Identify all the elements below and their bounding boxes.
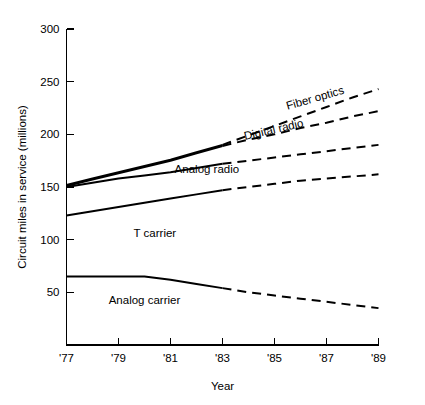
series-label-analog-radio: Analog radio — [175, 163, 240, 175]
y-tick-label: 300 — [40, 23, 59, 35]
series-line-solid-t-carrier — [67, 190, 223, 215]
series-label-analog-carrier: Analog carrier — [109, 294, 181, 306]
y-tick-label: 150 — [40, 181, 59, 193]
data-series — [67, 89, 379, 308]
x-axis-title: Year — [211, 380, 234, 392]
x-tick-label: '79 — [111, 352, 126, 364]
y-axis-title: Circuit miles in service (millions) — [16, 105, 28, 269]
line-chart: 50100150200250300'77'79'81'83'85'87'89 F… — [0, 0, 425, 405]
x-tick-label: '77 — [59, 352, 74, 364]
y-tick-label: 50 — [47, 286, 60, 298]
series-line-dashed-analog-radio — [223, 145, 379, 164]
y-tick-label: 250 — [40, 76, 59, 88]
series-label-t-carrier: T carrier — [134, 227, 177, 239]
chart-container: 50100150200250300'77'79'81'83'85'87'89 F… — [0, 0, 425, 405]
x-tick-label: '87 — [319, 352, 334, 364]
series-label-digital-radio: Digital radio — [243, 117, 305, 142]
x-tick-label: '85 — [267, 352, 282, 364]
y-tick-label: 100 — [40, 234, 59, 246]
series-line-dashed-t-carrier — [223, 174, 379, 190]
x-tick-label: '83 — [215, 352, 230, 364]
x-tick-label: '81 — [163, 352, 178, 364]
series-label-fiber-optics: Fiber optics — [285, 84, 346, 112]
series-labels: Fiber opticsDigital radioAnalog radioT c… — [109, 84, 346, 306]
axis-tick-labels: 50100150200250300'77'79'81'83'85'87'89 — [40, 23, 386, 364]
series-line-dashed-analog-carrier — [223, 288, 379, 308]
axis-titles: Circuit miles in service (millions)Year — [16, 105, 234, 392]
y-tick-label: 200 — [40, 128, 59, 140]
x-tick-label: '89 — [371, 352, 386, 364]
series-line-solid-analog-carrier — [67, 277, 223, 289]
